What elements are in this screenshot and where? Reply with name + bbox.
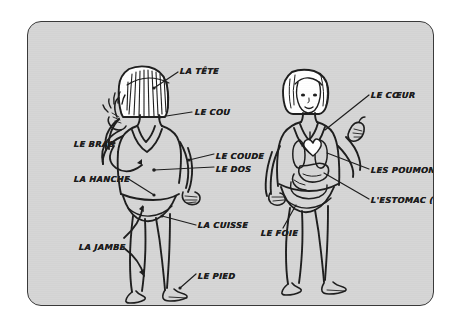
label-l-estomac: L'ESTOMAC (M): [371, 196, 434, 204]
label-les-poumons: LES POUMONS (M): [371, 166, 434, 174]
figure-left-drawing: [102, 66, 200, 303]
label-la-tete: LA TÊTE: [180, 67, 220, 75]
label-le-foie: LE FOIE: [261, 229, 299, 237]
diagram-card: LA TÊTE LE COU LE BRAS LE COUDE LE DOS L…: [27, 21, 434, 306]
label-le-cou: LE COU: [195, 108, 231, 116]
label-le-coeur: LE CŒUR: [371, 91, 416, 99]
label-le-coude: LE COUDE: [216, 152, 265, 160]
label-la-hanche: LA HANCHE: [74, 175, 130, 183]
label-le-bras: LE BRAS: [74, 140, 115, 148]
label-le-pied: LE PIED: [198, 272, 236, 280]
label-le-dos: LE DOS: [216, 165, 252, 173]
label-la-jambe: LA JAMBE: [79, 243, 126, 251]
figure-right-drawing: [266, 70, 365, 295]
poster-page: LA TÊTE LE COU LE BRAS LE COUDE LE DOS L…: [0, 0, 457, 328]
label-la-cuisse: LA CUISSE: [198, 221, 249, 229]
